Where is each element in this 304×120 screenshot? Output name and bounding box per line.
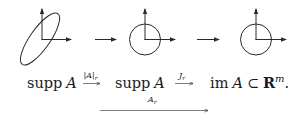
map-abs-a-r: |A|r bbox=[83, 71, 100, 84]
circle-figure-2 bbox=[241, 9, 287, 55]
space-supp-a-1: suppA bbox=[27, 75, 77, 91]
space-supp-a-2: suppA bbox=[115, 75, 165, 91]
map-label: Jr bbox=[177, 71, 186, 81]
composite-label: Ar bbox=[147, 95, 158, 105]
mapping-diagram: suppA |A|r suppA Jr imA⊂Rm. Ar bbox=[0, 0, 304, 120]
map-j-r: Jr bbox=[175, 71, 193, 84]
circle-figure-1 bbox=[130, 9, 176, 55]
ellipse-figure bbox=[14, 8, 71, 70]
composite-map-a-r: Ar bbox=[100, 95, 208, 111]
map-label: |A|r bbox=[84, 71, 99, 81]
space-im-a-subset-rm: imA⊂Rm. bbox=[210, 73, 289, 91]
